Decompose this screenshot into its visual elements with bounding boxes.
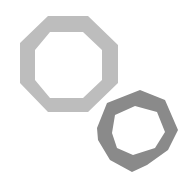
small-octagon-ring: [97, 90, 178, 172]
figure-canvas: [0, 0, 196, 188]
large-octagon-ring: [20, 16, 118, 112]
